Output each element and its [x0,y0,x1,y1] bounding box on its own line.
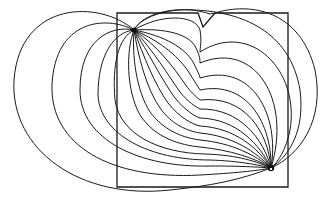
outer-field-lines-right [134,9,317,168]
source-point [131,27,136,32]
field-line-diagram [0,0,333,199]
sink-point [268,165,274,171]
inner-field-lines [129,18,292,168]
outer-field-lines-left [14,12,271,192]
